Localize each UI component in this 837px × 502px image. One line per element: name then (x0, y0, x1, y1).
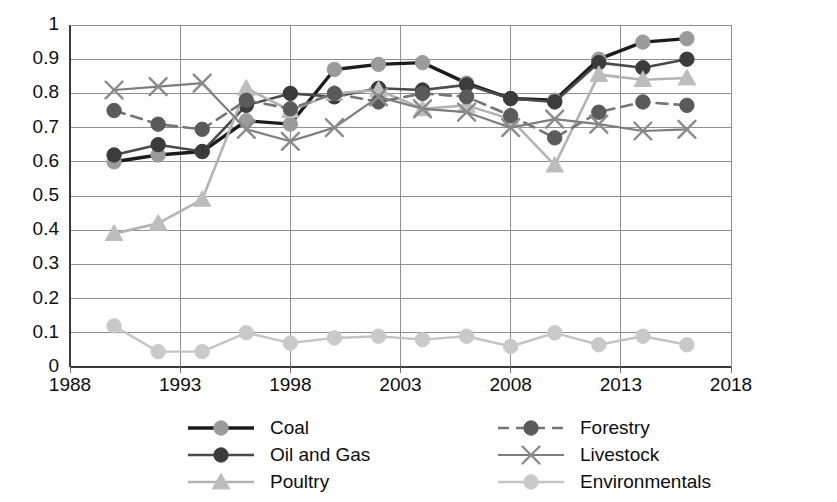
data-point-marker (415, 86, 429, 100)
legend-item-forestry[interactable]: Forestry (498, 417, 650, 438)
x-axis-tick-label: 2018 (710, 374, 752, 395)
data-point-marker (327, 331, 341, 345)
data-point-marker (195, 122, 209, 136)
data-point-marker (524, 421, 538, 435)
data-point-marker (636, 35, 650, 49)
data-point-marker (548, 326, 562, 340)
data-point-marker (195, 344, 209, 358)
data-point-marker (107, 103, 121, 117)
data-point-marker (327, 62, 341, 76)
data-point-marker (415, 55, 429, 69)
data-point-marker (524, 475, 538, 489)
data-point-marker (592, 105, 606, 119)
legend-item-label: Livestock (580, 444, 660, 465)
y-axis-tick-label: 0.6 (33, 150, 59, 171)
legend-item-label: Forestry (580, 417, 650, 438)
data-point-marker (459, 90, 473, 104)
data-point-marker (503, 339, 517, 353)
data-point-marker (680, 31, 694, 45)
legend-item-coal[interactable]: Coal (188, 417, 309, 438)
data-point-marker (107, 319, 121, 333)
data-point-marker (636, 95, 650, 109)
legend-item-livestock[interactable]: Livestock (498, 444, 660, 465)
data-point-marker (107, 148, 121, 162)
data-point-marker (415, 332, 429, 346)
data-point-marker (151, 344, 165, 358)
legend-item-environmentals[interactable]: Environmentals (498, 471, 711, 492)
data-point-marker (239, 93, 253, 107)
data-point-marker (680, 98, 694, 112)
chart-legend: CoalOil and GasPoultryForestryLivestockE… (188, 417, 711, 492)
data-point-marker (283, 102, 297, 116)
legend-item-label: Environmentals (580, 471, 711, 492)
y-axis-tick-label: 0.8 (33, 81, 59, 102)
data-point-marker (239, 326, 253, 340)
y-axis-tick-label: 1 (48, 13, 59, 34)
x-axis-tick-label: 1993 (159, 374, 201, 395)
data-point-marker (194, 191, 211, 206)
y-axis-tick-label: 0.3 (33, 252, 59, 273)
data-point-marker (503, 91, 517, 105)
x-axis-tick-label: 2013 (600, 374, 642, 395)
y-axis-tick-label: 0.2 (33, 287, 59, 308)
x-axis-tick-label: 2003 (379, 374, 421, 395)
data-point-marker (150, 215, 167, 230)
data-point-marker (636, 329, 650, 343)
data-point-marker (151, 138, 165, 152)
y-axis-tick-label: 0.4 (33, 218, 60, 239)
data-point-marker (371, 57, 385, 71)
data-point-marker (283, 117, 297, 131)
data-point-marker (327, 86, 341, 100)
data-point-marker (214, 421, 228, 435)
data-point-marker (548, 131, 562, 145)
data-point-marker (195, 144, 209, 158)
data-point-marker (680, 52, 694, 66)
y-axis-tick-label: 0.9 (33, 47, 59, 68)
line-chart: 00.10.20.30.40.50.60.70.80.9119881993199… (0, 0, 837, 502)
legend-item-label: Poultry (270, 471, 330, 492)
data-point-marker (459, 329, 473, 343)
y-axis-tick-label: 0.7 (33, 116, 59, 137)
data-point-marker (214, 448, 228, 462)
data-point-marker (151, 117, 165, 131)
chart-container: 00.10.20.30.40.50.60.70.80.9119881993199… (0, 0, 837, 502)
legend-item-oil-and-gas[interactable]: Oil and Gas (188, 444, 370, 465)
data-point-marker (283, 336, 297, 350)
legend-item-label: Oil and Gas (270, 444, 370, 465)
data-point-marker (283, 86, 297, 100)
legend-item-poultry[interactable]: Poultry (188, 471, 330, 492)
x-axis-tick-label: 1988 (49, 374, 91, 395)
legend-item-label: Coal (270, 417, 309, 438)
x-axis-tick-label: 1998 (269, 374, 311, 395)
data-point-marker (592, 338, 606, 352)
data-point-marker (503, 108, 517, 122)
data-point-marker (680, 338, 694, 352)
data-point-marker (548, 95, 562, 109)
data-point-marker (371, 329, 385, 343)
y-axis-tick-label: 0.5 (33, 184, 59, 205)
x-axis-tick-label: 2008 (490, 374, 532, 395)
y-axis-tick-label: 0.1 (33, 321, 59, 342)
